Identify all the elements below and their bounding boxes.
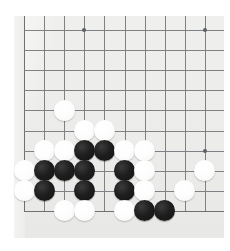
black-stone[interactable] bbox=[34, 180, 55, 201]
black-stone[interactable] bbox=[114, 160, 135, 181]
white-stone[interactable] bbox=[94, 120, 115, 141]
black-stone[interactable] bbox=[114, 180, 135, 201]
board-surface bbox=[14, 16, 224, 238]
black-stone[interactable] bbox=[94, 140, 115, 161]
white-stone[interactable] bbox=[114, 140, 135, 161]
black-stone[interactable] bbox=[74, 180, 95, 201]
white-stone[interactable] bbox=[14, 160, 35, 181]
white-stone[interactable] bbox=[174, 180, 195, 201]
white-stone[interactable] bbox=[54, 100, 75, 121]
white-stone[interactable] bbox=[134, 140, 155, 161]
go-board-photo bbox=[0, 0, 230, 251]
black-stone[interactable] bbox=[74, 140, 95, 161]
black-stone[interactable] bbox=[154, 200, 175, 221]
black-stone[interactable] bbox=[74, 160, 95, 181]
white-stone[interactable] bbox=[194, 160, 215, 181]
white-stone[interactable] bbox=[14, 180, 35, 201]
black-stone[interactable] bbox=[34, 160, 55, 181]
white-stone[interactable] bbox=[74, 120, 95, 141]
stone-layer bbox=[14, 16, 224, 238]
white-stone[interactable] bbox=[34, 140, 55, 161]
white-stone[interactable] bbox=[134, 160, 155, 181]
white-stone[interactable] bbox=[114, 200, 135, 221]
black-stone[interactable] bbox=[54, 160, 75, 181]
white-stone[interactable] bbox=[134, 180, 155, 201]
black-stone[interactable] bbox=[134, 200, 155, 221]
white-stone[interactable] bbox=[54, 200, 75, 221]
white-stone[interactable] bbox=[54, 140, 75, 161]
white-stone[interactable] bbox=[74, 200, 95, 221]
